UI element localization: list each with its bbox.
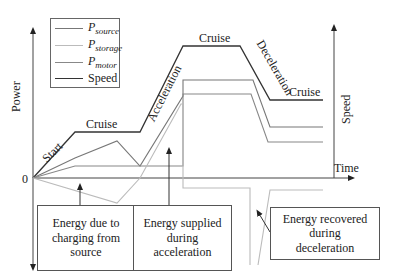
phase-cruise-3-label: Cruise (289, 86, 320, 98)
legend-item-p-storage: Pstorage (55, 37, 122, 53)
legend-swatch (55, 28, 83, 29)
p-motor-curve (33, 94, 323, 178)
p-source-curve (33, 80, 323, 178)
legend-item-p-motor: Pmotor (55, 54, 117, 70)
annotation-line: Energy supplied (143, 216, 221, 230)
legend-swatch (55, 62, 83, 63)
time-axis-label: Time (334, 162, 359, 174)
speed-axis-label: Speed (340, 95, 352, 124)
annotation-line: Energy recovered (283, 212, 368, 226)
annotation-line: source (52, 245, 120, 259)
legend-subscript: storage (95, 43, 122, 53)
phase-cruise-2-label: Cruise (199, 32, 230, 44)
legend-item-p-source: Psource (55, 20, 119, 36)
zero-label: 0 (22, 173, 28, 185)
annotation-line: charging from (52, 231, 120, 245)
legend-subscript: source (95, 26, 119, 36)
power-axis-label: Power (10, 81, 22, 112)
annotation-acceleration: Energy supplied during acceleration (133, 205, 232, 271)
annotation-line: during (283, 226, 368, 240)
legend-swatch (55, 45, 83, 46)
legend-swatch (55, 78, 83, 79)
annotation-recovery: Energy recovered during deceleration (270, 207, 380, 260)
annotation-charging: Energy due to charging from source (37, 205, 135, 271)
annotation-line: during (143, 231, 221, 245)
annotation-line: deceleration (283, 241, 368, 255)
annotation-line: acceleration (143, 245, 221, 259)
legend-label: Speed (88, 71, 117, 86)
legend: Psource Pstorage Pmotor Speed (50, 18, 120, 88)
legend-item-speed: Speed (55, 70, 117, 86)
phase-cruise-1-label: Cruise (86, 118, 117, 130)
legend-subscript: motor (95, 60, 117, 70)
annotation-line: Energy due to (52, 216, 120, 230)
